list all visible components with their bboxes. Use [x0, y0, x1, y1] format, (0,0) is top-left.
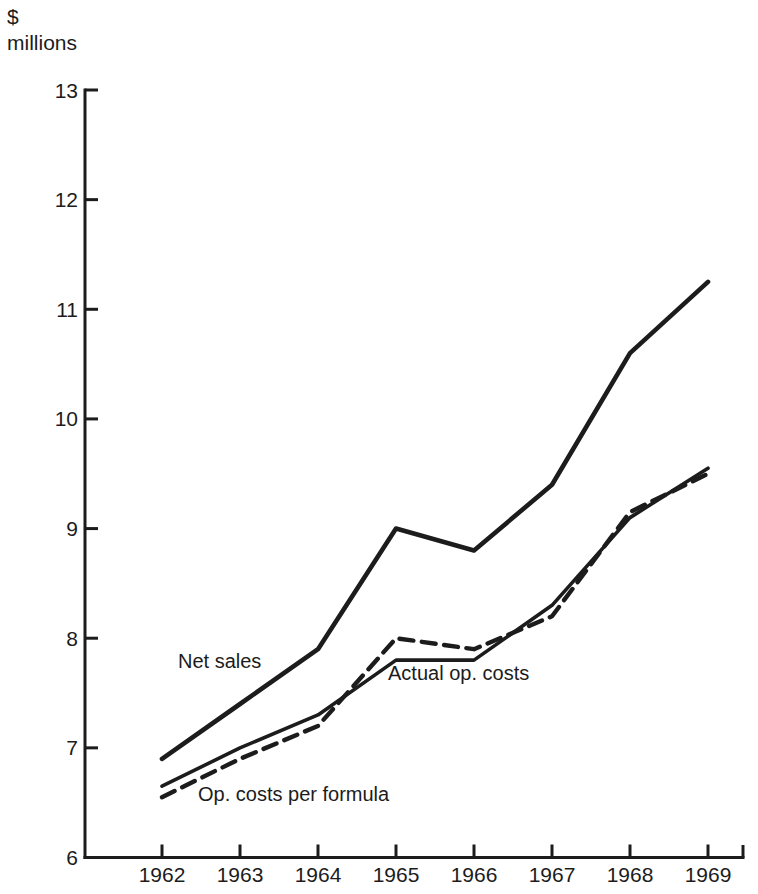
- net-sales-label: Net sales: [178, 650, 261, 672]
- x-tick-label: 1966: [451, 863, 498, 886]
- x-axis-ticks: 19621963196419651966196719681969: [139, 845, 732, 887]
- x-tick-label: 1967: [529, 863, 576, 886]
- y-tick-label: 13: [55, 79, 78, 102]
- x-tick-label: 1968: [607, 863, 654, 886]
- y-tick-label: 11: [56, 298, 78, 321]
- op-costs-per-formula-label: Op. costs per formula: [198, 783, 390, 805]
- chart-page: $ millions 131211109876 1962196319641965…: [0, 0, 758, 894]
- x-tick-label: 1963: [217, 863, 264, 886]
- x-tick-label: 1965: [373, 863, 420, 886]
- line-chart: 131211109876 196219631964196519661967196…: [0, 0, 758, 894]
- x-tick-label: 1964: [295, 863, 342, 886]
- x-tick-label: 1969: [685, 863, 732, 886]
- x-tick-label: 1962: [139, 863, 186, 886]
- y-tick-label: 12: [55, 188, 78, 211]
- series-lines: [162, 282, 708, 797]
- y-tick-label: 8: [66, 627, 78, 650]
- actual-op-costs-label: Actual op. costs: [388, 662, 529, 684]
- y-tick-label: 6: [66, 846, 78, 869]
- y-tick-label: 9: [66, 517, 78, 540]
- y-tick-label: 7: [66, 736, 78, 759]
- y-tick-label: 10: [55, 407, 78, 430]
- y-axis-ticks: 131211109876: [55, 79, 98, 870]
